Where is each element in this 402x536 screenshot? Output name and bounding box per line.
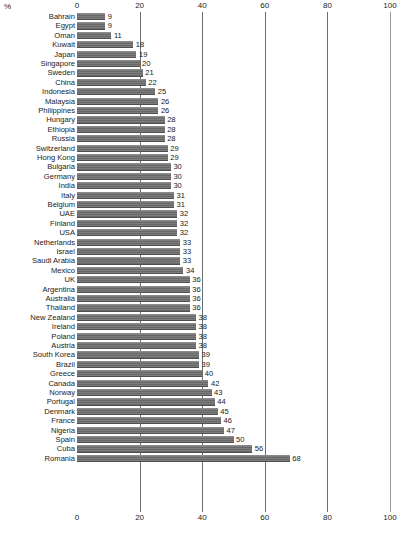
bar [77, 427, 224, 434]
category-label: Finland [50, 219, 75, 228]
bar-row: Spain50 [0, 435, 402, 444]
bar-value-label: 31 [177, 200, 185, 209]
bar [77, 314, 196, 321]
bar [77, 436, 234, 443]
bar-row: Romania68 [0, 454, 402, 463]
bar-row: Thailand36 [0, 303, 402, 312]
bar-value-label: 36 [192, 275, 200, 284]
bar [77, 135, 165, 142]
bar [77, 267, 183, 274]
category-label: France [51, 416, 75, 425]
bar-row: Portugal44 [0, 397, 402, 406]
bar-row: Finland32 [0, 219, 402, 228]
bar-value-label: 28 [167, 115, 175, 124]
bar-row: Switzerland29 [0, 144, 402, 153]
category-label: Singapore [40, 59, 75, 68]
bar-row: Italy31 [0, 191, 402, 200]
category-label: Denmark [44, 407, 75, 416]
category-label: Bahrain [49, 12, 75, 21]
bar [77, 210, 177, 217]
bar [77, 201, 174, 208]
bar-rows: Bahrain9Egypt9Oman11Kuwait18Japan19Singa… [0, 12, 402, 512]
category-label: Philippines [38, 106, 75, 115]
axis-tick-label-bottom-40: 40 [198, 513, 207, 522]
bar-value-label: 39 [202, 350, 210, 359]
category-label: Bulgaria [47, 162, 75, 171]
bar-value-label: 38 [198, 332, 206, 341]
bar-chart: % 020406080100 Bahrain9Egypt9Oman11Kuwai… [0, 0, 402, 536]
bar-row: France46 [0, 416, 402, 425]
category-label: Netherlands [34, 238, 75, 247]
axis-tick-label-top-20: 20 [135, 1, 144, 10]
bar-row: Russia28 [0, 134, 402, 143]
category-label: Saudi Arabia [32, 256, 75, 265]
bar-value-label: 31 [177, 191, 185, 200]
bar-row: Denmark45 [0, 407, 402, 416]
bar-row: USA32 [0, 228, 402, 237]
bar-value-label: 26 [161, 97, 169, 106]
bar-value-label: 44 [217, 397, 225, 406]
category-label: Kuwait [52, 40, 75, 49]
bar-value-label: 36 [192, 303, 200, 312]
bar-value-label: 30 [173, 162, 181, 171]
bar-row: Argentina36 [0, 285, 402, 294]
category-label: Belgium [48, 200, 75, 209]
category-label: Hong Kong [37, 153, 75, 162]
bar-row: Germany30 [0, 172, 402, 181]
bar-row: Greece40 [0, 369, 402, 378]
bar-row: Singapore20 [0, 59, 402, 68]
bar-value-label: 25 [158, 87, 166, 96]
bar [77, 229, 177, 236]
category-label: Ethiopia [48, 125, 75, 134]
category-label: Poland [51, 332, 75, 341]
bar-value-label: 30 [173, 181, 181, 190]
bar-value-label: 32 [180, 228, 188, 237]
bar-row: Netherlands33 [0, 238, 402, 247]
bar [77, 116, 165, 123]
bar [77, 445, 252, 452]
bar-row: Sweden21 [0, 68, 402, 77]
bar-row: Egypt9 [0, 21, 402, 30]
axis-tick-label-top-60: 60 [260, 1, 269, 10]
category-label: Mexico [51, 266, 75, 275]
bar-row: Hungary28 [0, 115, 402, 124]
category-label: Romania [45, 454, 75, 463]
category-label: Norway [49, 388, 75, 397]
bar-value-label: 33 [183, 238, 191, 247]
axis-tick-label-bottom-0: 0 [75, 513, 79, 522]
bar-value-label: 21 [145, 68, 153, 77]
bar-row: Canada42 [0, 379, 402, 388]
bar-row: Australia36 [0, 294, 402, 303]
category-label: India [59, 181, 75, 190]
bar [77, 60, 140, 67]
category-label: Egypt [56, 21, 75, 30]
bar-value-label: 38 [198, 341, 206, 350]
bar [77, 145, 168, 152]
bar-row: India30 [0, 181, 402, 190]
bar-value-label: 32 [180, 209, 188, 218]
category-label: Switzerland [36, 144, 75, 153]
bar-value-label: 38 [198, 322, 206, 331]
category-label: Austria [51, 341, 75, 350]
bar [77, 389, 212, 396]
category-label: China [55, 78, 75, 87]
bar-row: Israel33 [0, 247, 402, 256]
bar [77, 323, 196, 330]
bar [77, 351, 199, 358]
bar-value-label: 36 [192, 294, 200, 303]
bar [77, 304, 190, 311]
bar-value-label: 39 [202, 360, 210, 369]
bar [77, 192, 174, 199]
bar-value-label: 43 [214, 388, 222, 397]
bar [77, 333, 196, 340]
category-label: Brazil [56, 360, 75, 369]
category-label: USA [59, 228, 75, 237]
bar-value-label: 29 [170, 153, 178, 162]
category-label: Hungary [46, 115, 75, 124]
top-axis: 020406080100 [0, 1, 402, 12]
bar [77, 257, 180, 264]
bar-value-label: 33 [183, 247, 191, 256]
bar [77, 295, 190, 302]
category-label: Indonesia [42, 87, 75, 96]
category-label: Ireland [52, 322, 75, 331]
